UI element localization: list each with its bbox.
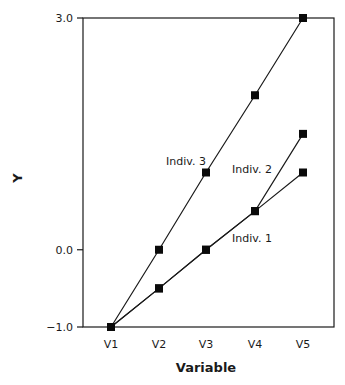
x-tick-label: V1 bbox=[104, 338, 119, 351]
y-tick-label: 0.0 bbox=[56, 244, 74, 257]
y-tick-label: 3.0 bbox=[56, 12, 74, 25]
x-tick-label: V4 bbox=[248, 338, 263, 351]
y-tick-label: −1.0 bbox=[46, 321, 73, 334]
series-label-indiv-3: Indiv. 3 bbox=[166, 155, 206, 168]
x-tick-label: V5 bbox=[296, 338, 311, 351]
x-axis: V1V2V3V4V5 bbox=[104, 338, 311, 351]
series-line-indiv-2 bbox=[111, 134, 303, 327]
data-point-indiv-3-v4 bbox=[251, 91, 259, 99]
series-label-indiv-1: Indiv. 1 bbox=[232, 232, 272, 245]
series-label-indiv-2: Indiv. 2 bbox=[232, 163, 272, 176]
series-markers bbox=[107, 14, 307, 331]
x-tick-label: V3 bbox=[199, 338, 214, 351]
data-point-indiv-2-v3 bbox=[202, 246, 210, 254]
data-point-indiv-2-v2 bbox=[155, 284, 163, 292]
data-point-indiv-3-v1 bbox=[107, 323, 115, 331]
x-tick-label: V2 bbox=[152, 338, 167, 351]
data-point-indiv-3-v3 bbox=[202, 169, 210, 177]
data-point-indiv-3-v2 bbox=[155, 246, 163, 254]
x-axis-title: Variable bbox=[176, 360, 237, 375]
data-point-indiv-2-v5 bbox=[299, 130, 307, 138]
y-axis-title: Y bbox=[10, 173, 25, 184]
data-point-indiv-2-v4 bbox=[251, 207, 259, 215]
data-point-indiv-3-v5 bbox=[299, 14, 307, 22]
y-axis: 3.00.0−1.0 bbox=[46, 12, 83, 334]
data-point-indiv-1-v5 bbox=[299, 169, 307, 177]
line-chart: 3.00.0−1.0 V1V2V3V4V5 Indiv. 3 Indiv. 2 … bbox=[0, 0, 345, 385]
